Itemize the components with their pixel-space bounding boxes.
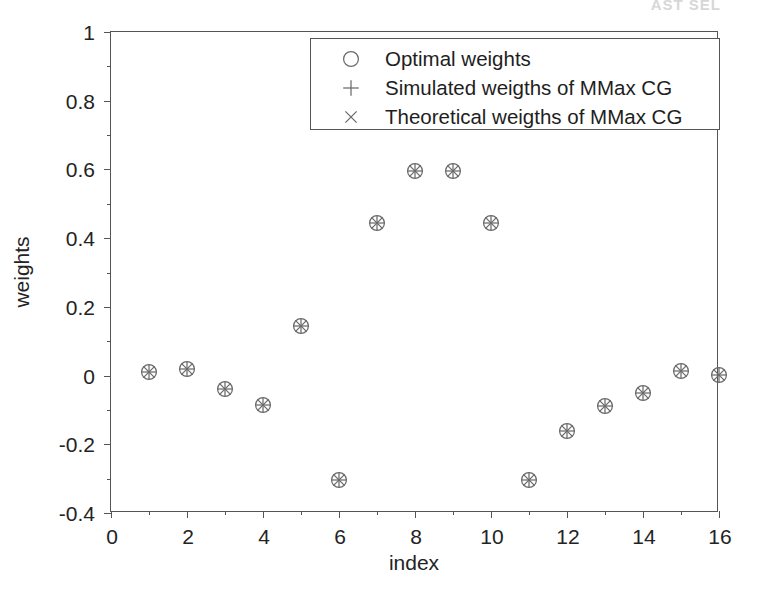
data-point-circle [440,158,466,184]
legend-label: Theoretical weigths of MMax CG [385,105,682,129]
data-point-cross [326,467,352,493]
data-point-cross [668,358,694,384]
x-tick: 14 [643,511,644,518]
scan-artifact-text: AST SEL [651,0,721,13]
x-tick: 0 [111,511,112,518]
data-point-plus [630,380,656,406]
legend-cross-icon [338,104,364,130]
legend-entry[interactable]: Optimal weights [311,44,719,73]
y-axis-label: weights [10,236,34,307]
data-point-circle [212,376,238,402]
legend-entry[interactable]: Simulated weigths of MMax CG [311,73,719,102]
data-point-circle [592,393,618,419]
data-point-plus [174,356,200,382]
x-tick-label: 6 [334,525,346,549]
data-point-cross [516,467,542,493]
data-point-plus [706,362,732,388]
y-tick-minor [107,479,111,480]
x-axis-label: index [389,551,439,575]
data-point-plus [288,313,314,339]
data-point-circle [630,380,656,406]
data-point-plus [516,467,542,493]
x-tick-minor [681,511,682,515]
data-point-circle [706,362,732,388]
x-tick-minor [301,511,302,515]
x-tick-label: 2 [182,525,194,549]
data-point-cross [440,158,466,184]
x-tick-label: 14 [632,525,655,549]
y-tick-label: 0.2 [66,296,95,320]
data-point-cross [250,392,276,418]
x-tick: 10 [491,511,492,518]
x-tick-minor [225,511,226,515]
x-tick-label: 16 [708,525,731,549]
x-tick: 6 [339,511,340,518]
data-point-plus [440,158,466,184]
y-tick-minor [107,135,111,136]
data-point-cross [364,210,390,236]
data-point-plus [364,210,390,236]
data-point-cross [174,356,200,382]
x-tick-minor [529,511,530,515]
x-tick: 16 [719,511,720,518]
data-point-plus [326,467,352,493]
y-tick-minor [107,273,111,274]
data-point-circle [174,356,200,382]
y-tick: 0.4 [104,238,111,239]
data-point-cross [212,376,238,402]
x-tick: 2 [187,511,188,518]
data-point-cross [592,393,618,419]
figure-canvas: AST SEL -0.4-0.200.20.40.60.81 024681012… [0,0,763,595]
data-point-cross [288,313,314,339]
y-tick: 0 [104,376,111,377]
legend-label: Optimal weights [385,47,531,71]
y-tick-minor [107,204,111,205]
data-point-plus [554,418,580,444]
data-point-cross [706,362,732,388]
data-point-circle [326,467,352,493]
data-point-plus [250,392,276,418]
data-point-circle [288,313,314,339]
x-tick: 4 [263,511,264,518]
y-tick-label: 0 [83,365,95,389]
data-point-circle [516,467,542,493]
y-tick: 0.6 [104,169,111,170]
x-tick-minor [453,511,454,515]
legend-label: Simulated weigths of MMax CG [385,76,672,100]
data-point-plus [592,393,618,419]
chart-legend: Optimal weightsSimulated weigths of MMax… [310,38,720,130]
x-tick-label: 8 [410,525,422,549]
data-point-plus [668,358,694,384]
x-tick: 12 [567,511,568,518]
y-tick-minor [107,341,111,342]
data-point-plus [136,359,162,385]
data-point-cross [478,210,504,236]
y-tick-label: 0.6 [66,158,95,182]
x-tick-label: 12 [556,525,579,549]
data-point-circle [478,210,504,236]
y-tick: 0.8 [104,101,111,102]
y-tick-label: 1 [83,21,95,45]
data-point-plus [478,210,504,236]
data-point-circle [402,158,428,184]
data-point-circle [554,418,580,444]
legend-entry[interactable]: Theoretical weigths of MMax CG [311,102,719,131]
y-tick-label: 0.8 [66,90,95,114]
data-point-cross [554,418,580,444]
y-tick: -0.2 [104,444,111,445]
data-point-circle [136,359,162,385]
y-tick-label: -0.4 [59,502,95,526]
data-point-cross [136,359,162,385]
y-tick: -0.4 [104,513,111,514]
x-tick-minor [377,511,378,515]
data-point-cross [630,380,656,406]
data-point-circle [250,392,276,418]
x-tick-label: 10 [480,525,503,549]
legend-circle-icon [338,46,364,72]
y-tick-minor [107,410,111,411]
y-tick-label: 0.4 [66,227,95,251]
y-tick: 0.2 [104,307,111,308]
data-point-plus [212,376,238,402]
x-tick-minor [149,511,150,515]
data-point-cross [402,158,428,184]
